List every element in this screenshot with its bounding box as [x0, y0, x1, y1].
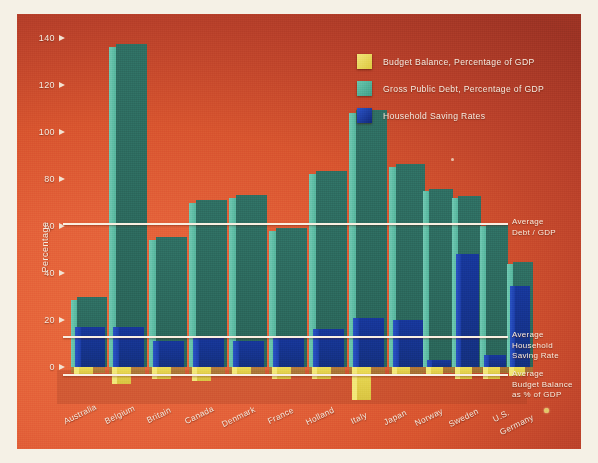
y-axis-label: Percentage [40, 207, 50, 287]
annotation-average-household-saving-rate: Average Household Saving Rate [512, 330, 559, 362]
saving-bar-britain [159, 341, 184, 367]
saving-bar-france [279, 336, 304, 367]
decorative-dot-right [544, 408, 549, 413]
axis-tick-arrow-120 [59, 82, 65, 88]
bar-group-belgium [107, 14, 149, 449]
saving-bar-denmark [239, 341, 264, 367]
bar-group-france [267, 14, 309, 449]
legend-swatch-gross-public-debt [357, 81, 372, 96]
annotation-line: as % of GDP [512, 390, 573, 401]
budget-bar-holland [317, 367, 331, 379]
annotation-average-debt-gdp: Average Debt / GDP [512, 217, 556, 238]
bar-group-denmark [227, 14, 269, 449]
refline-average-debt-gdp [63, 223, 508, 225]
budget-bar-us [488, 367, 500, 379]
budget-bar-britain [157, 367, 171, 379]
annotation-line: Average [512, 330, 559, 341]
chart-figure: 140 120 100 80 60 40 20 0 Percentage [0, 0, 598, 463]
bar-group-britain [147, 14, 189, 449]
debt-bar-belgium [116, 44, 147, 367]
chart-legend: Budget Balance, Percentage of GDP Gross … [357, 54, 544, 135]
axis-tick-arrow-140 [59, 35, 65, 41]
budget-bar-sweden [460, 367, 472, 379]
axis-tick-120: 120 [21, 80, 55, 90]
saving-bar-canada [199, 336, 224, 367]
budget-bar-france [277, 367, 291, 379]
axis-tick-arrow-100 [59, 129, 65, 135]
axis-tick-arrow-40 [59, 270, 65, 276]
axis-tick-100: 100 [21, 127, 55, 137]
bar-group-canada [187, 14, 229, 449]
saving-bar-japan [399, 320, 423, 367]
axis-tick-arrow-80 [59, 176, 65, 182]
legend-label-household-saving: Household Saving Rates [383, 111, 485, 121]
legend-label-budget-balance: Budget Balance, Percentage of GDP [383, 57, 535, 67]
axis-tick-0: 0 [21, 362, 55, 372]
axis-tick-80: 80 [21, 174, 55, 184]
axis-tick-140: 140 [21, 33, 55, 43]
saving-bar-australia [81, 327, 105, 367]
legend-label-gross-public-debt: Gross Public Debt, Percentage of GDP [383, 84, 544, 94]
legend-item-gross-public-debt[interactable]: Gross Public Debt, Percentage of GDP [357, 81, 544, 96]
legend-item-household-saving[interactable]: Household Saving Rates [357, 108, 544, 123]
debt-bar-left-belgium [109, 47, 116, 367]
axis-tick-arrow-0 [59, 364, 65, 370]
annotation-line: Household [512, 341, 559, 352]
saving-bar-holland [319, 329, 344, 367]
annotation-line: Average [512, 369, 573, 380]
saving-bar-us [489, 355, 506, 367]
saving-bar-italy [359, 318, 384, 367]
bar-group-holland [307, 14, 349, 449]
legend-swatch-household-saving [357, 108, 372, 123]
chart-plate: 140 120 100 80 60 40 20 0 Percentage [17, 14, 581, 449]
bar-group-australia [69, 14, 109, 449]
refline-average-household-saving [63, 336, 508, 338]
annotation-line: Debt / GDP [512, 228, 556, 239]
refline-average-budget-balance [63, 374, 508, 376]
axis-tick-arrow-20 [59, 317, 65, 323]
legend-swatch-budget-balance [357, 54, 372, 69]
budget-bar-italy [357, 367, 371, 400]
saving-bar-sweden [461, 254, 479, 367]
decorative-dot-legend [451, 158, 454, 161]
saving-bar-belgium [119, 327, 144, 367]
annotation-average-budget-balance: Average Budget Balance as % of GDP [512, 369, 573, 401]
axis-tick-20: 20 [21, 315, 55, 325]
legend-item-budget-balance[interactable]: Budget Balance, Percentage of GDP [357, 54, 544, 69]
annotation-line: Budget Balance [512, 380, 573, 391]
saving-bar-norway [432, 360, 451, 367]
annotation-line: Saving Rate [512, 351, 559, 362]
annotation-line: Average [512, 217, 556, 228]
